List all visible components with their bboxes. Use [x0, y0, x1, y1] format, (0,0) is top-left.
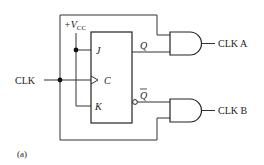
- j-pin-label: J: [96, 45, 101, 56]
- vcc-label: +VCC: [64, 19, 87, 32]
- q-pin-label: Q: [140, 40, 148, 51]
- vcc-wire: [76, 33, 91, 106]
- inversion-bubble-icon: [133, 100, 138, 105]
- qbar-pin-label: Q: [140, 90, 148, 101]
- and-gate-a: [170, 32, 202, 55]
- vcc-junction-dot: [74, 48, 79, 53]
- figure-caption: (a): [17, 149, 27, 159]
- and-gate-b: [170, 99, 202, 122]
- clk-a-label: CLK A: [218, 38, 248, 49]
- clk-junction-dot: [58, 78, 63, 83]
- circuit-diagram: CLK +VCC J C K Q Q CLK A CLK B (a): [0, 0, 264, 165]
- clk-input-label: CLK: [15, 75, 36, 86]
- c-pin-label: C: [104, 75, 111, 86]
- clk-b-label: CLK B: [218, 105, 248, 116]
- k-pin-label: K: [94, 101, 103, 112]
